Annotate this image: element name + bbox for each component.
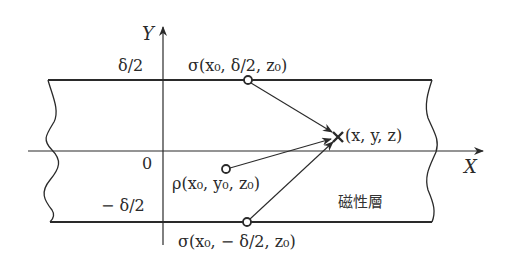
field-point-label: (x, y, z) [345,128,402,144]
y-axis-label: Y [142,25,154,43]
sigma-top-label: σ(x₀, δ/2, z₀) [188,58,287,74]
x-axis-label: X [464,158,477,176]
tick-top-label: δ/2 [118,58,143,74]
sigma-bottom-label: σ(x₀, − δ/2, z₀) [178,234,296,250]
magnetic-layer-label: 磁性層 [338,195,383,210]
rho-point [222,165,230,173]
sigma-bottom-point [243,218,251,226]
sigma-top-point [244,76,252,84]
magnetic-layer-diagram [0,0,511,270]
origin-label: 0 [142,156,152,172]
field-point-cross-icon [333,132,343,142]
vector-sigma-top [251,83,332,132]
vector-rho [230,139,331,168]
rho-label: ρ(x₀, y₀, z₀) [172,176,260,192]
vector-sigma-bottom [250,142,333,219]
tick-bottom-label: − δ/2 [101,198,145,214]
